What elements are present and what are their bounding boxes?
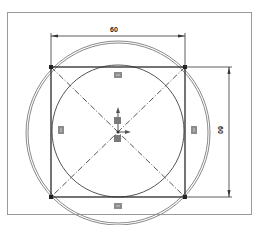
- constraint-marker-bottom[interactable]: [114, 203, 122, 209]
- horizontal-dimension-value[interactable]: 60: [110, 26, 118, 33]
- vertical-dimension-value[interactable]: 60: [217, 126, 224, 134]
- constraint-marker-top[interactable]: [114, 72, 122, 78]
- sketch-canvas[interactable]: 60 60: [0, 0, 263, 241]
- horizontal-dimension[interactable]: 60: [51, 26, 185, 67]
- constraint-marker-left[interactable]: [58, 126, 64, 134]
- constraint-marker-right[interactable]: [191, 126, 197, 134]
